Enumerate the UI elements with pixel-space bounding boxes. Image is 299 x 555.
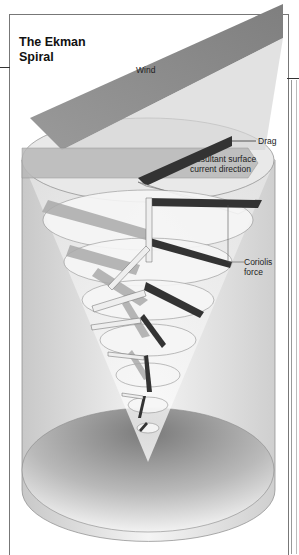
- title-line-2: Spiral: [19, 50, 86, 65]
- resultant-label-line2: current direction: [190, 164, 251, 174]
- layer-disk-8: [137, 423, 159, 433]
- drag-label: Drag: [258, 136, 277, 146]
- coriolis-label-line2: force: [244, 267, 263, 277]
- wind-label: Wind: [136, 65, 156, 75]
- title-line-1: The Ekman: [19, 35, 86, 50]
- coriolis-label-line1: Coriolis: [244, 257, 272, 267]
- layer-disk-7: [128, 397, 168, 413]
- figure-title: The Ekman Spiral: [19, 35, 86, 65]
